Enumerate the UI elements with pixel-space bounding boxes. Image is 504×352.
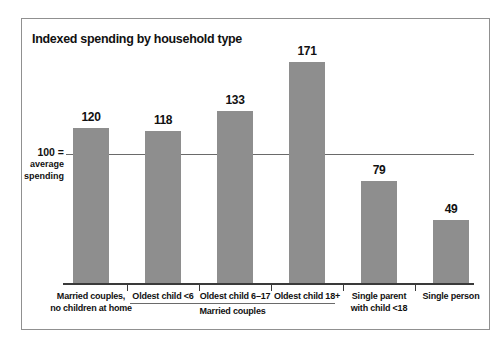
chart-frame: Indexed spending by household type 100 =…: [21, 18, 490, 330]
x-axis-tick: [199, 285, 200, 291]
bar-1: [73, 128, 109, 284]
bar-value-label-1: 120: [66, 110, 116, 124]
bar-2: [145, 131, 181, 284]
reference-line-label: 100 =averagespending: [22, 146, 64, 182]
reference-line-label-line: 100 =: [22, 146, 64, 158]
category-label-4: Oldest child 18+: [266, 290, 348, 302]
group-bracket-line: [130, 303, 335, 304]
reference-line-label-line: spending: [22, 170, 64, 182]
bar-value-label-3: 133: [210, 93, 260, 107]
category-label-1: Married couples,no children at home: [50, 290, 132, 314]
figure-canvas: Indexed spending by household type 100 =…: [0, 0, 504, 352]
plot-area: 100 =averagespending1201181331717949Marr…: [22, 19, 489, 329]
bar-value-label-5: 79: [354, 163, 404, 177]
bar-value-label-4: 171: [282, 44, 332, 58]
x-axis-tick: [271, 285, 272, 291]
bar-6: [433, 220, 469, 284]
bar-4: [289, 62, 325, 284]
x-axis-baseline: [63, 283, 474, 285]
category-label-5: Single parentwith child <18: [338, 290, 420, 314]
reference-line-label-line: average: [22, 158, 64, 170]
group-bracket-label: Married couples: [130, 306, 335, 316]
category-label-3: Oldest child 6–17: [194, 290, 276, 302]
bar-3: [217, 111, 253, 284]
category-label-line: Single person: [410, 290, 492, 302]
category-label-line: no children at home: [50, 302, 132, 314]
category-label-line: Oldest child 6–17: [194, 290, 276, 302]
category-label-line: Single parent: [338, 290, 420, 302]
category-label-2: Oldest child <6: [122, 290, 204, 302]
x-axis-tick: [415, 285, 416, 291]
category-label-line: with child <18: [338, 302, 420, 314]
reference-line: [66, 154, 474, 155]
category-label-line: Married couples,: [50, 290, 132, 302]
bar-value-label-2: 118: [138, 113, 188, 127]
bar-5: [361, 181, 397, 284]
x-axis-tick: [127, 285, 128, 291]
bar-value-label-6: 49: [426, 202, 476, 216]
x-axis-tick: [343, 285, 344, 291]
category-label-line: Oldest child <6: [122, 290, 204, 302]
category-label-6: Single person: [410, 290, 492, 302]
category-label-line: Oldest child 18+: [266, 290, 348, 302]
